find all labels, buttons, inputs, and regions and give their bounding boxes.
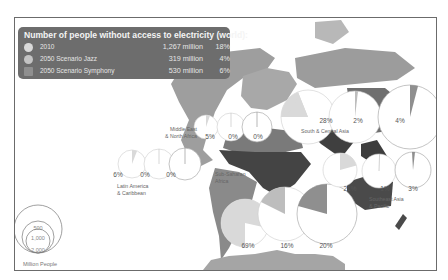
- size-legend-unit: Million People: [23, 261, 57, 267]
- pie-seap-jazz: [362, 154, 396, 188]
- legend-pct-jazz: 4%: [200, 54, 230, 63]
- map-new-zealand: [395, 214, 407, 230]
- size-legend-500: 500: [33, 225, 42, 231]
- legend-pct-symphony: 6%: [200, 66, 230, 75]
- pct-seap-2010: 21%: [343, 185, 356, 192]
- legend-label-symphony: 2050 Scenario Symphony: [40, 67, 114, 74]
- pct-ssa-jazz: 16%: [280, 242, 293, 249]
- pct-sca-jazz: 2%: [353, 117, 362, 124]
- legend-title: Number of people without access to elect…: [24, 30, 248, 40]
- pie-sca-symphony: [378, 85, 436, 149]
- pct-ssa-symphony: 20%: [319, 242, 332, 249]
- legend-value-2010: 1,267 million: [155, 42, 203, 51]
- pct-latam-jazz: 0%: [140, 171, 149, 178]
- legend-label-2010: 2010: [40, 43, 54, 50]
- legend-row-jazz: 2050 Scenario Jazz 319 million 4%: [24, 54, 224, 65]
- pct-mena-2010: 5%: [205, 133, 214, 140]
- legend-pct-2010: 18%: [200, 42, 230, 51]
- pie-seap-2010: [323, 153, 357, 187]
- region-label-ssa: Sub-Saharan Africa: [215, 171, 246, 184]
- pct-seap-symphony: 3%: [408, 185, 417, 192]
- pct-mena-symphony: 0%: [253, 133, 262, 140]
- legend-box: Number of people without access to elect…: [18, 27, 230, 79]
- legend-value-symphony: 530 million: [155, 66, 203, 75]
- pct-sca-2010: 28%: [319, 117, 332, 124]
- map-russia: [295, 48, 415, 88]
- region-label-latam: Latin America & Caribbean: [117, 183, 148, 196]
- legend-row-2010: 2010 1,267 million 18%: [24, 42, 224, 53]
- legend-swatch-jazz: [24, 55, 33, 64]
- pie-ssa-symphony: [297, 184, 357, 244]
- region-label-mena: Middle East & North Africa: [165, 126, 197, 139]
- size-legend-1000: 1,000: [31, 235, 45, 241]
- region-label-seap: Southeast Asia & Pacific: [369, 196, 404, 209]
- map-greenland: [315, 20, 349, 44]
- region-label-sca: South & Central Asia: [301, 128, 349, 135]
- size-legend-2000: 2,000: [31, 247, 45, 253]
- pct-latam-2010: 6%: [113, 171, 122, 178]
- pct-latam-symphony: 0%: [166, 171, 175, 178]
- pct-sca-symphony: 4%: [395, 117, 404, 124]
- legend-label-jazz: 2050 Scenario Jazz: [40, 55, 97, 62]
- pct-ssa-2010: 69%: [241, 242, 254, 249]
- pct-seap-jazz: 1%: [380, 185, 389, 192]
- legend-swatch-2010: [24, 43, 33, 52]
- legend-value-jazz: 319 million: [155, 54, 203, 63]
- legend-row-symphony: 2050 Scenario Symphony 530 million 6%: [24, 66, 224, 77]
- pie-seap-symphony: [395, 152, 431, 188]
- pct-mena-jazz: 0%: [228, 133, 237, 140]
- legend-swatch-symphony: [24, 67, 33, 76]
